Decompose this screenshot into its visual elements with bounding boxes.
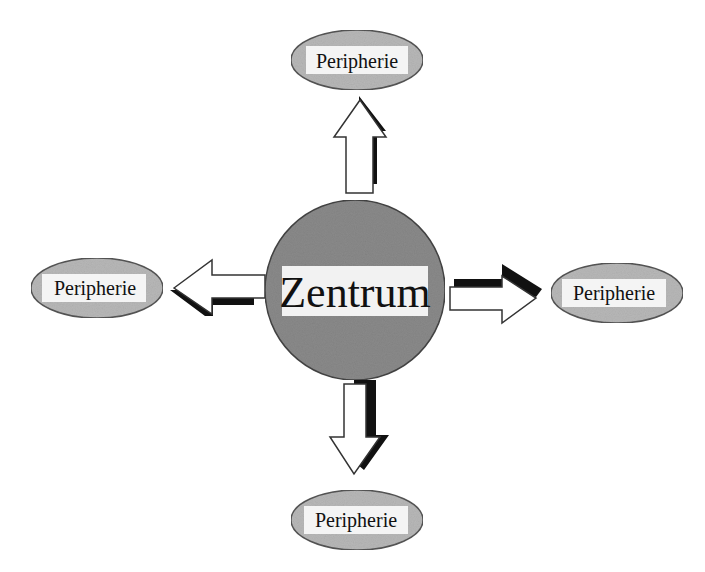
node-left-label: Peripherie	[54, 277, 136, 300]
node-bottom: Peripherie	[291, 490, 423, 550]
arrow-left	[170, 260, 265, 316]
center-label: Zentrum	[279, 268, 431, 317]
node-left: Peripherie	[31, 258, 163, 318]
center-node: Zentrum	[265, 200, 445, 380]
arrow-left-body	[174, 260, 265, 314]
node-top: Peripherie	[291, 30, 423, 90]
node-right-label: Peripherie	[573, 282, 655, 305]
node-bottom-label: Peripherie	[315, 509, 397, 532]
hub-spoke-diagram: Zentrum Peripherie Peripherie Peripherie…	[0, 0, 705, 572]
arrow-right	[450, 264, 542, 323]
arrow-down	[330, 380, 389, 474]
node-top-label: Peripherie	[316, 50, 398, 73]
arrow-up	[334, 96, 386, 193]
node-right: Peripherie	[551, 263, 683, 323]
arrow-up-body	[334, 100, 386, 193]
